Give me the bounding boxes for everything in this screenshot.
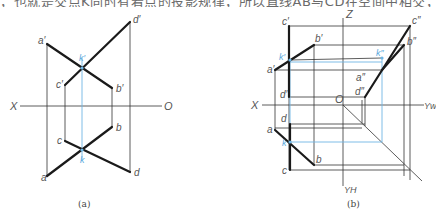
label-a-prime: a′: [38, 35, 47, 46]
label-c-prime: c′: [56, 79, 64, 90]
figure-b: Z X O Yw YH c′ b′ k′ a′ d′ c″ b″ k″ a″ d…: [250, 8, 436, 209]
label-c-prime: c′: [282, 16, 290, 27]
label-b: b: [316, 154, 322, 165]
point-k: [80, 148, 83, 151]
label-d-prime: d′: [280, 89, 289, 100]
line-c-dprime-d-dprime: [365, 26, 410, 97]
label-d-prime: d′: [133, 14, 142, 25]
label-k-prime: k′: [79, 53, 86, 63]
axis-x-label: X: [9, 100, 18, 112]
figure-a: X O a′ d′ k′ c′ b′ b c k a d (a): [9, 14, 173, 209]
label-k-prime: k′: [279, 52, 286, 62]
axis-yw-label: Yw: [424, 101, 436, 111]
label-k: k: [80, 155, 85, 165]
axis-o-label: O: [164, 100, 173, 112]
h-line-k: [290, 58, 382, 60]
line-a-dprime-b-dprime: [382, 45, 404, 70]
line-c-d: [65, 141, 130, 172]
caption-a: (a): [78, 199, 90, 209]
line-a-b: [275, 130, 314, 165]
label-c-dprime: c″: [412, 15, 421, 26]
label-b-dprime: b″: [407, 36, 417, 47]
label-a: a: [267, 124, 273, 135]
axis-o-label: O: [335, 93, 344, 105]
label-b: b: [116, 122, 122, 133]
label-c: c: [282, 165, 287, 176]
axis-yh-label: YH: [344, 185, 357, 195]
line-c-prime-d-prime: [65, 22, 130, 85]
point-k-prime: [80, 66, 83, 69]
label-d-dprime: d″: [355, 86, 365, 97]
label-a-prime: a′: [267, 64, 276, 75]
axis-x-label: X: [250, 99, 259, 111]
label-a: a: [41, 172, 47, 183]
label-c: c: [57, 135, 62, 146]
label-b-prime: b′: [116, 83, 125, 94]
point-k: [288, 140, 291, 143]
label-b-prime: b′: [315, 33, 324, 44]
axis-z-label: Z: [345, 8, 354, 20]
caption-b: (b): [347, 199, 360, 209]
projection-diagrams: X O a′ d′ k′ c′ b′ b c k a d (a): [0, 0, 436, 216]
label-k: k: [282, 138, 287, 148]
label-a-dprime: a″: [356, 72, 366, 83]
label-d: d: [281, 113, 287, 124]
point-k-prime: [288, 58, 291, 61]
label-k-dprime: k″: [376, 48, 385, 58]
label-d: d: [134, 167, 140, 178]
